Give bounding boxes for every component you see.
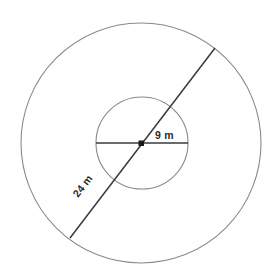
- center-point-marker: [139, 141, 145, 147]
- outer-radius-label: 24 m: [70, 172, 95, 199]
- diagram-canvas: 9 m 24 m: [0, 0, 277, 274]
- geometry-diagram: 9 m 24 m: [0, 0, 277, 274]
- inner-radius-label: 9 m: [155, 129, 174, 141]
